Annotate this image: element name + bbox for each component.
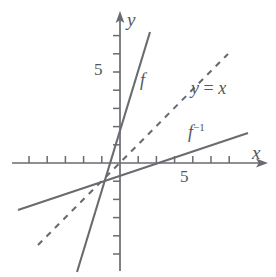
y-equals-x-operator: =: [199, 78, 218, 98]
y-axis-group: [113, 11, 124, 271]
graph-figure: y x 5 5 f f−1 y = x: [0, 0, 276, 277]
y-axis-tick-label-5: 5: [94, 61, 103, 78]
x-axis-label: x: [252, 143, 260, 162]
line-f-inverse: [18, 133, 248, 210]
curve-label-y-equals-x: y = x: [191, 79, 226, 97]
curve-label-f-inverse-exponent: −1: [193, 121, 205, 133]
curve-label-f-inverse: f−1: [188, 122, 205, 141]
y-axis-label: y: [127, 10, 135, 29]
plot-canvas: [0, 0, 276, 277]
y-equals-x-rhs: x: [218, 78, 226, 98]
curve-label-f: f: [140, 71, 145, 89]
x-axis-group: [12, 156, 268, 167]
y-equals-x-lhs: y: [191, 78, 199, 98]
x-axis-tick-label-5: 5: [180, 168, 189, 185]
